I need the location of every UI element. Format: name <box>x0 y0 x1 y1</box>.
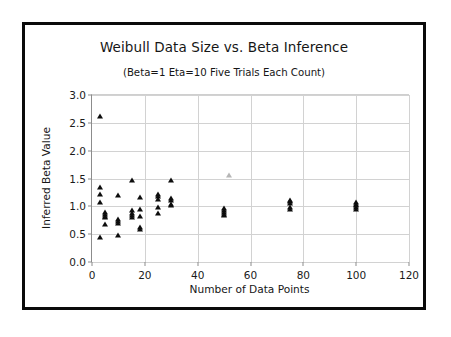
x-tick-label: 100 <box>346 269 366 281</box>
y-tick-mark <box>88 206 92 207</box>
chart-frame: Weibull Data Size vs. Beta Inference (Be… <box>22 22 426 310</box>
y-tick-label: 1.5 <box>69 173 86 185</box>
data-point <box>97 234 103 239</box>
data-point <box>115 233 121 238</box>
x-tick-label: 80 <box>297 269 310 281</box>
data-point <box>168 203 174 208</box>
y-tick-mark <box>88 95 92 96</box>
data-point <box>155 205 161 210</box>
y-tick-label: 2.5 <box>69 117 86 129</box>
data-point <box>155 196 161 201</box>
x-gridline <box>356 95 357 262</box>
x-gridline <box>251 95 252 262</box>
data-point <box>97 199 103 204</box>
x-tick-label: 20 <box>138 269 151 281</box>
data-point <box>129 215 135 220</box>
data-point <box>137 213 143 218</box>
x-tick-mark <box>250 262 251 266</box>
y-tick-label: 0.0 <box>69 256 86 268</box>
data-point <box>155 211 161 216</box>
data-point <box>102 215 108 220</box>
y-tick-mark <box>88 150 92 151</box>
x-tick-label: 120 <box>399 269 419 281</box>
plot-area: 0.00.51.01.52.02.53.0020406080100120 <box>91 94 409 262</box>
data-point <box>102 222 108 227</box>
data-point <box>221 213 227 218</box>
x-tick-mark <box>144 262 145 266</box>
x-tick-label: 0 <box>89 269 96 281</box>
y-tick-label: 1.0 <box>69 200 86 212</box>
data-point <box>115 221 121 226</box>
data-point <box>115 193 121 198</box>
data-point <box>353 206 359 211</box>
y-axis-label: Inferred Beta Value <box>39 94 53 261</box>
data-point <box>137 207 143 212</box>
x-gridline <box>198 95 199 262</box>
y-tick-label: 3.0 <box>69 89 86 101</box>
y-axis-label-text: Inferred Beta Value <box>40 127 52 229</box>
x-gridline <box>303 95 304 262</box>
x-tick-mark <box>303 262 304 266</box>
y-tick-label: 0.5 <box>69 228 86 240</box>
x-axis-label: Number of Data Points <box>91 283 408 295</box>
x-tick-label: 60 <box>244 269 257 281</box>
x-tick-mark <box>409 262 410 266</box>
data-point <box>168 177 174 182</box>
data-point <box>129 178 135 183</box>
x-tick-mark <box>197 262 198 266</box>
data-point <box>137 226 143 231</box>
x-tick-mark <box>356 262 357 266</box>
data-point <box>97 184 103 189</box>
data-point <box>137 194 143 199</box>
data-point <box>97 113 103 118</box>
x-gridline <box>145 95 146 262</box>
x-tick-mark <box>92 262 93 266</box>
x-tick-label: 40 <box>191 269 204 281</box>
y-tick-mark <box>88 122 92 123</box>
y-tick-label: 2.0 <box>69 145 86 157</box>
y-tick-mark <box>88 178 92 179</box>
chart-subtitle: (Beta=1 Eta=10 Five Trials Each Count) <box>25 67 423 78</box>
y-tick-mark <box>88 234 92 235</box>
data-point <box>97 192 103 197</box>
data-point <box>287 207 293 212</box>
x-gridline <box>409 95 410 262</box>
chart-title: Weibull Data Size vs. Beta Inference <box>25 39 423 55</box>
data-point <box>226 173 232 178</box>
